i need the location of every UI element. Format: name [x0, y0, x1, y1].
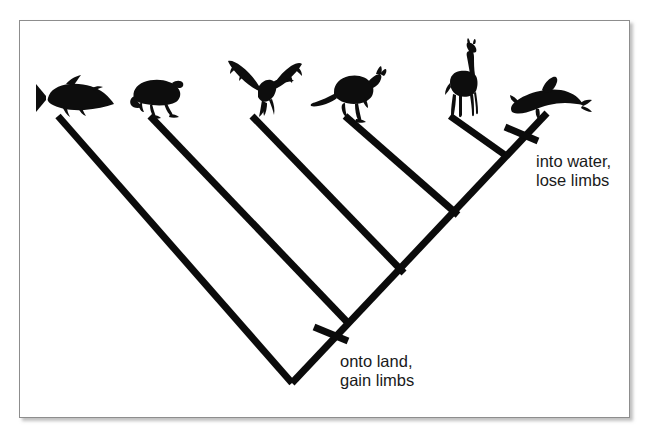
dolphin-silhouette	[510, 77, 592, 120]
branch-group	[58, 113, 547, 383]
branch-kangaroo	[345, 116, 458, 215]
event-label-into-water-line2: lose limbs	[536, 171, 609, 189]
cladogram-svg	[0, 0, 653, 440]
branch-spine	[292, 113, 547, 383]
figure-canvas: into water,lose limbs onto land,gain lim…	[0, 0, 653, 440]
event-label-onto-land-line1: onto land,	[340, 352, 412, 370]
branch-giraffe	[450, 116, 505, 155]
event-label-into-water: into water,lose limbs	[536, 152, 611, 190]
fish-silhouette	[36, 75, 114, 117]
frog-silhouette	[130, 80, 183, 119]
kangaroo-silhouette	[311, 66, 387, 123]
branch-fish	[58, 116, 292, 383]
event-label-onto-land: onto land,gain limbs	[340, 352, 414, 390]
branch-frog	[150, 116, 350, 325]
event-label-onto-land-line2: gain limbs	[340, 371, 414, 389]
giraffe-silhouette	[445, 38, 478, 117]
event-label-into-water-line1: into water,	[536, 152, 611, 170]
eagle-silhouette	[228, 61, 302, 117]
